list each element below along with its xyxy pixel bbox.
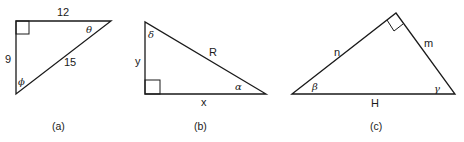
side-label-right-c: m — [424, 37, 433, 49]
angle-label-phi: ϕ — [18, 76, 25, 87]
side-label-bottom-b: x — [201, 96, 207, 108]
triangle-b: y x R δ α (b) — [135, 22, 266, 132]
angle-label-gamma: γ — [434, 83, 440, 94]
side-label-hypotenuse-a: 15 — [64, 56, 76, 68]
side-label-base-c: H — [371, 97, 379, 109]
caption-c: (c) — [370, 120, 382, 132]
right-angle-marker-c — [387, 20, 403, 31]
triangle-a: 12 9 15 θ ϕ (a) — [5, 6, 111, 132]
angle-label-alpha: α — [235, 81, 242, 92]
side-label-left-c: n — [334, 46, 340, 58]
right-angle-marker-b — [145, 80, 160, 94]
side-label-top-a: 12 — [57, 6, 69, 18]
angle-label-theta: θ — [86, 24, 92, 35]
side-label-left-b: y — [135, 55, 141, 67]
triangle-c: n m H β γ (c) — [292, 13, 455, 132]
caption-b: (b) — [194, 120, 207, 132]
angle-label-beta: β — [311, 81, 318, 92]
right-angle-marker-a — [16, 21, 29, 34]
side-label-left-a: 9 — [5, 53, 11, 65]
triangles-diagram: 12 9 15 θ ϕ (a) y x R δ α (b) n m H β γ … — [0, 0, 464, 142]
triangle-b-outline — [145, 22, 266, 94]
angle-label-delta: δ — [148, 29, 154, 40]
side-label-hypotenuse-b: R — [209, 46, 217, 58]
caption-a: (a) — [52, 120, 65, 132]
